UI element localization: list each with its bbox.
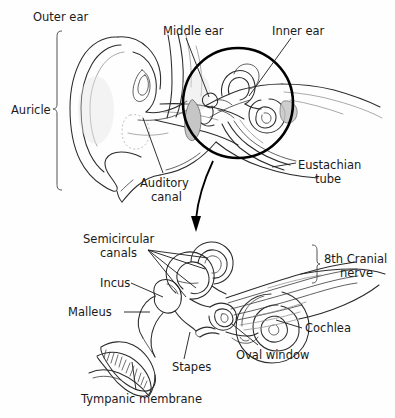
label-auditory-canal-line1: Auditory	[140, 176, 189, 190]
label-malleus: Malleus	[68, 305, 112, 319]
label-tympanic-membrane: Tympanic membrane	[80, 392, 202, 406]
ear-anatomy-figure: Outer ear Auricle Middle ear Inner ear A…	[0, 0, 395, 418]
label-incus: Incus	[100, 276, 130, 290]
auricle-bracket	[53, 31, 62, 190]
label-auricle: Auricle	[11, 103, 51, 117]
label-auditory-canal-line2: canal	[151, 190, 182, 204]
label-outer-ear: Outer ear	[33, 10, 88, 24]
ear-diagram-svg: Outer ear Auricle Middle ear Inner ear A…	[0, 0, 395, 418]
label-eustachian-tube-line2: tube	[315, 172, 341, 186]
magnify-arrow	[191, 161, 213, 232]
label-semicircular-line2: canals	[100, 246, 137, 260]
label-semicircular-line1: Semicircular	[83, 232, 155, 246]
label-middle-ear: Middle ear	[163, 24, 224, 38]
label-stapes: Stapes	[172, 360, 211, 374]
label-cranial-nerve-line2: nerve	[340, 266, 373, 280]
label-inner-ear: Inner ear	[272, 24, 325, 38]
label-cochlea: Cochlea	[305, 321, 351, 335]
label-oval-window: Oval window	[236, 348, 309, 362]
incus-leader	[131, 283, 163, 297]
label-cranial-nerve-line1: 8th Cranial	[324, 252, 387, 266]
auditory-canal-leader	[143, 118, 163, 173]
label-eustachian-line1: Eustachian	[298, 158, 361, 172]
stapes-leader	[184, 332, 190, 359]
